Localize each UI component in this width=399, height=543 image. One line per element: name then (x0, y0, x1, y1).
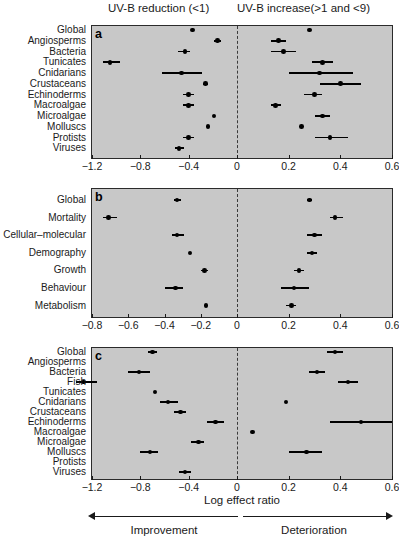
row-label-crustaceans: Crustaceans (0, 79, 86, 89)
axis-tick (140, 155, 141, 159)
axis-tick-label: 0.4 (333, 481, 348, 493)
axis-tick (289, 476, 290, 480)
axis-tick (189, 155, 190, 159)
data-point (299, 124, 304, 129)
row-label-global: Global (0, 195, 86, 205)
data-point (292, 286, 297, 291)
data-point (202, 268, 207, 273)
data-point (190, 28, 195, 33)
axis-tick-label: −0.8 (130, 481, 151, 493)
axis-tick-label: 0.6 (385, 319, 399, 331)
axis-tick (392, 155, 393, 159)
data-point (317, 71, 322, 76)
data-point (250, 430, 255, 435)
row-label-microalgae: Microalgae (0, 111, 86, 121)
data-point (359, 420, 364, 425)
axis-tick (237, 476, 238, 480)
label-deterioration: Deterioration (281, 524, 347, 536)
data-point (108, 60, 113, 65)
data-point (312, 92, 317, 97)
row-label-viruses: Viruses (0, 467, 86, 477)
axis-tick-label: 0.6 (385, 481, 399, 493)
plot-panel-c: c (91, 347, 393, 480)
axis-tick-label: 0.2 (281, 481, 296, 493)
data-point (188, 251, 193, 256)
row-label-metabolism: Metabolism (0, 301, 86, 311)
row-label-behaviour: Behaviour (0, 283, 86, 293)
data-point (148, 450, 153, 455)
data-point (297, 268, 302, 273)
data-point (175, 233, 180, 238)
data-point (206, 124, 211, 129)
axis-tick (140, 476, 141, 480)
axis-tick-label: −0.8 (82, 319, 103, 331)
data-point (338, 81, 343, 86)
data-point (281, 49, 286, 54)
data-point (333, 215, 338, 220)
data-point (215, 38, 220, 43)
axis-tick (289, 155, 290, 159)
axis-tick-label: 0.2 (281, 160, 296, 172)
axis-tick (128, 314, 129, 318)
data-point (204, 303, 209, 308)
data-point (289, 303, 294, 308)
arrow-head-deterioration (386, 512, 393, 520)
data-point (178, 410, 183, 415)
axis-tick (289, 314, 290, 318)
data-point (186, 135, 191, 140)
data-point (150, 350, 155, 355)
arrow-line-deterioration (243, 516, 387, 517)
axis-tick (340, 155, 341, 159)
data-point (183, 49, 188, 54)
data-point (186, 92, 191, 97)
axis-tick-label: 0.4 (333, 160, 348, 172)
data-point (346, 380, 351, 385)
data-point (203, 81, 208, 86)
data-point (137, 370, 142, 375)
zero-reference-line (237, 189, 238, 317)
label-improvement: Improvement (130, 524, 197, 536)
data-point (310, 251, 315, 256)
row-label-tunicates: Tunicates (0, 57, 86, 67)
row-label-echinoderms: Echinoderms (0, 90, 86, 100)
data-point (106, 215, 111, 220)
axis-tick-label: −0.4 (154, 319, 175, 331)
data-point (284, 400, 289, 405)
panel-letter-b: b (95, 190, 103, 204)
row-label-macroalgae: Macroalgae (0, 100, 86, 110)
header-uvb-reduction: UV-B reduction (<1) (108, 2, 209, 14)
data-point (166, 400, 171, 405)
axis-tick (165, 314, 166, 318)
row-label-angiosperms: Angiosperms (0, 36, 86, 46)
data-point (175, 198, 180, 203)
data-point (304, 450, 309, 455)
axis-tick (189, 476, 190, 480)
data-point (153, 390, 158, 395)
panel-letter-a: a (95, 27, 102, 41)
data-point (312, 233, 317, 238)
row-label-mortality: Mortality (0, 213, 86, 223)
data-point (320, 114, 325, 119)
axis-tick-label: −1.2 (82, 160, 103, 172)
axis-tick (92, 314, 93, 318)
axis-tick (92, 155, 93, 159)
axis-tick (237, 155, 238, 159)
plot-panel-a: a (91, 25, 393, 159)
axis-tick-label: −0.2 (190, 319, 211, 331)
axis-tick (340, 476, 341, 480)
axis-tick-label: 0 (234, 160, 240, 172)
axis-tick (340, 314, 341, 318)
axis-tick-label: −0.6 (118, 319, 139, 331)
axis-tick-label: 0.6 (385, 160, 399, 172)
data-point (328, 135, 333, 140)
data-point (307, 198, 312, 203)
axis-tick-label: 0 (234, 481, 240, 493)
row-label-protists: Protists (0, 133, 86, 143)
row-label-cellular-molecular: Cellular–molecular (0, 230, 86, 240)
axis-tick (92, 476, 93, 480)
data-point (186, 103, 191, 108)
row-label-molluscs: Molluscs (0, 122, 86, 132)
data-point (320, 60, 325, 65)
data-point (213, 420, 218, 425)
row-label-global: Global (0, 25, 86, 35)
